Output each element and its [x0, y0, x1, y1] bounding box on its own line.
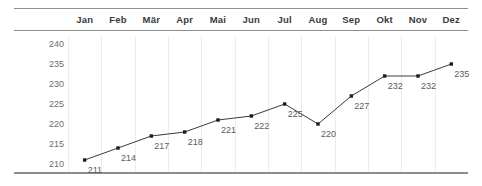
data-point-jan[interactable] — [83, 158, 86, 161]
column-header-jan: Jan — [68, 12, 101, 28]
data-point-okt[interactable] — [383, 74, 386, 77]
column-header-nov: Nov — [401, 12, 434, 28]
data-point-sep[interactable] — [350, 94, 353, 97]
column-header-mai: Mai — [201, 12, 234, 28]
y-axis-tick-210: 210 — [30, 159, 64, 169]
point-label-dez: 235 — [454, 69, 469, 79]
column-header-dez: Dez — [435, 12, 468, 28]
line-chart: JanFebMärAprMaiJunJulAugSepOktNovDez 210… — [0, 0, 482, 186]
month-header-row: JanFebMärAprMaiJunJulAugSepOktNovDez — [68, 12, 468, 28]
y-axis-tick-220: 220 — [30, 119, 64, 129]
y-axis-tick-230: 230 — [30, 79, 64, 89]
column-header-jul: Jul — [268, 12, 301, 28]
column-header-apr: Apr — [168, 12, 201, 28]
point-label-mär: 217 — [154, 141, 169, 151]
y-axis-labels: 210215220225230235240 — [30, 36, 64, 172]
column-header-feb: Feb — [101, 12, 134, 28]
point-label-mai: 221 — [221, 125, 236, 135]
point-label-jan: 211 — [88, 165, 102, 175]
point-label-aug: 220 — [321, 129, 336, 139]
data-point-mär[interactable] — [150, 134, 153, 137]
header-divider — [14, 30, 468, 31]
data-point-aug[interactable] — [316, 122, 319, 125]
y-axis-tick-235: 235 — [30, 59, 64, 69]
point-label-jul: 225 — [288, 109, 303, 119]
point-label-apr: 218 — [188, 137, 203, 147]
point-label-feb: 214 — [121, 153, 136, 163]
data-point-feb[interactable] — [116, 146, 119, 149]
data-series — [68, 36, 468, 172]
point-label-okt: 232 — [388, 81, 403, 91]
data-point-dez[interactable] — [450, 62, 453, 65]
column-header-okt: Okt — [368, 12, 401, 28]
column-header-sep: Sep — [335, 12, 368, 28]
y-axis-tick-215: 215 — [30, 139, 64, 149]
data-point-jun[interactable] — [250, 114, 253, 117]
series-line — [85, 64, 452, 160]
column-header-jun: Jun — [235, 12, 268, 28]
data-point-mai[interactable] — [216, 118, 219, 121]
top-divider — [14, 8, 468, 9]
data-point-apr[interactable] — [183, 130, 186, 133]
point-label-sep: 227 — [354, 101, 369, 111]
y-axis-tick-240: 240 — [30, 39, 64, 49]
column-header-aug: Aug — [301, 12, 334, 28]
data-point-jul[interactable] — [283, 102, 286, 105]
column-header-mär: Mär — [135, 12, 168, 28]
data-point-nov[interactable] — [416, 74, 419, 77]
y-axis-tick-225: 225 — [30, 99, 64, 109]
point-label-nov: 232 — [421, 81, 436, 91]
plot-area: 211214217218221222225220227232232235 — [68, 36, 468, 172]
bottom-axis-line — [14, 172, 468, 174]
point-label-jun: 222 — [254, 121, 269, 131]
